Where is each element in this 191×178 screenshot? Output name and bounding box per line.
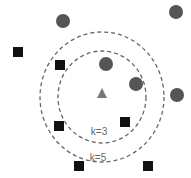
circle-point: [99, 57, 113, 71]
neighborhood-label-k-5: k=5: [90, 152, 106, 163]
square-point: [74, 161, 84, 171]
circle-point: [129, 77, 143, 91]
square-point: [54, 121, 64, 131]
square-point: [13, 47, 23, 57]
square-point: [55, 60, 65, 70]
circle-point: [169, 5, 183, 19]
neighborhood-label-k-3: k=3: [91, 126, 107, 137]
query-triangle-icon: [97, 88, 107, 98]
circle-point: [56, 14, 70, 28]
circle-point: [170, 88, 184, 102]
square-point: [143, 161, 153, 171]
square-point: [120, 117, 130, 127]
